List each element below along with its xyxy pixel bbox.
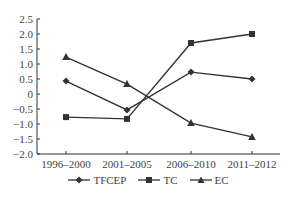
- legend-label: TC: [163, 174, 177, 186]
- square-marker-icon: [138, 176, 160, 184]
- y-tick-label: 1.0: [19, 58, 33, 70]
- diamond-marker-icon: [68, 176, 90, 184]
- legend-item-tfcep: TFCEP: [68, 174, 126, 186]
- y-tick-label: −1.5: [13, 133, 33, 145]
- y-tick-label: 0.5: [19, 73, 33, 85]
- legend: TFCEP TC EC: [0, 174, 297, 186]
- y-tick-label: 2.0: [19, 28, 33, 40]
- legend-item-ec: EC: [190, 174, 229, 186]
- diamond-marker-icon: [63, 78, 70, 85]
- square-marker-icon: [63, 114, 69, 120]
- x-axis: 1996–20002001–20052006–20102011–2012: [37, 151, 280, 170]
- square-marker-icon: [124, 116, 130, 122]
- triangle-marker-icon: [187, 119, 195, 126]
- y-tick-label: −2.0: [13, 148, 33, 160]
- legend-label: TFCEP: [93, 174, 126, 186]
- y-axis: 2.52.01.51.00.50−0.5−1.0−1.5−2.0: [13, 13, 40, 160]
- diamond-marker-icon: [249, 76, 256, 83]
- diamond-marker-icon: [188, 69, 195, 76]
- legend-label: EC: [215, 174, 229, 186]
- x-tick-label: 2011–2012: [227, 158, 276, 170]
- y-tick-label: −0.5: [13, 103, 33, 115]
- series-line-ec: [66, 57, 252, 137]
- triangle-marker-icon: [62, 53, 70, 60]
- diamond-marker-icon: [124, 106, 131, 113]
- y-tick-label: −1.0: [13, 118, 33, 130]
- line-chart: 2.52.01.51.00.50−0.5−1.0−1.5−2.0 1996–20…: [0, 0, 297, 175]
- x-tick-label: 2001–2005: [102, 158, 152, 170]
- legend-item-tc: TC: [138, 174, 177, 186]
- x-tick-label: 1996–2000: [41, 158, 91, 170]
- series-lines: [62, 31, 256, 140]
- triangle-marker-icon: [190, 176, 212, 184]
- x-tick-label: 2006–2010: [166, 158, 216, 170]
- square-marker-icon: [188, 40, 194, 46]
- y-tick-label: 1.5: [19, 43, 33, 55]
- y-tick-label: 0: [28, 88, 34, 100]
- y-tick-label: 2.5: [19, 13, 33, 25]
- square-marker-icon: [249, 31, 255, 37]
